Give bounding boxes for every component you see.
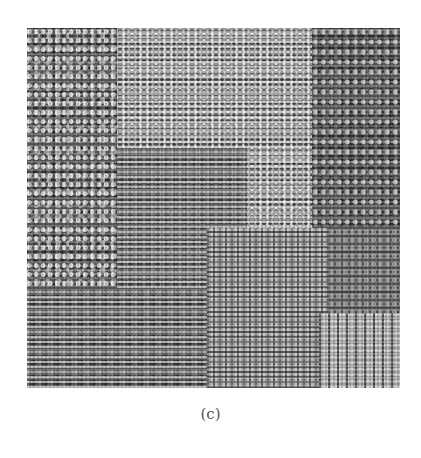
texture-noise-overlay — [27, 28, 400, 388]
figure-caption: (c) — [0, 405, 421, 423]
texture-mosaic-image — [27, 28, 400, 388]
